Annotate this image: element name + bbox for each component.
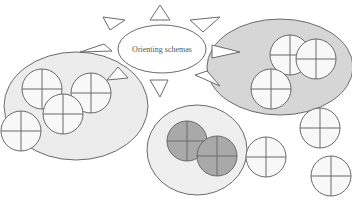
- free-schemas: [246, 108, 351, 196]
- schema-circle-icon: [43, 94, 83, 134]
- schema-circle-icon: [251, 69, 291, 109]
- orienting-schemas-diagram: Orienting schemas: [0, 0, 352, 201]
- schema-circle-icon: [1, 111, 41, 151]
- ray-top-icon: [150, 5, 170, 20]
- activated-schema-icon: [197, 136, 237, 176]
- ray-top-left-icon: [103, 17, 125, 30]
- schema-circle-icon: [300, 108, 340, 148]
- schema-circle-icon: [311, 156, 351, 196]
- ray-left-icon: [80, 44, 112, 52]
- ray-top-right-icon: [190, 17, 220, 32]
- schema-circle-icon: [296, 39, 336, 79]
- central-label: Orienting schemas: [132, 45, 192, 54]
- ray-bottom-icon: [150, 80, 168, 97]
- schema-circle-icon: [246, 137, 286, 177]
